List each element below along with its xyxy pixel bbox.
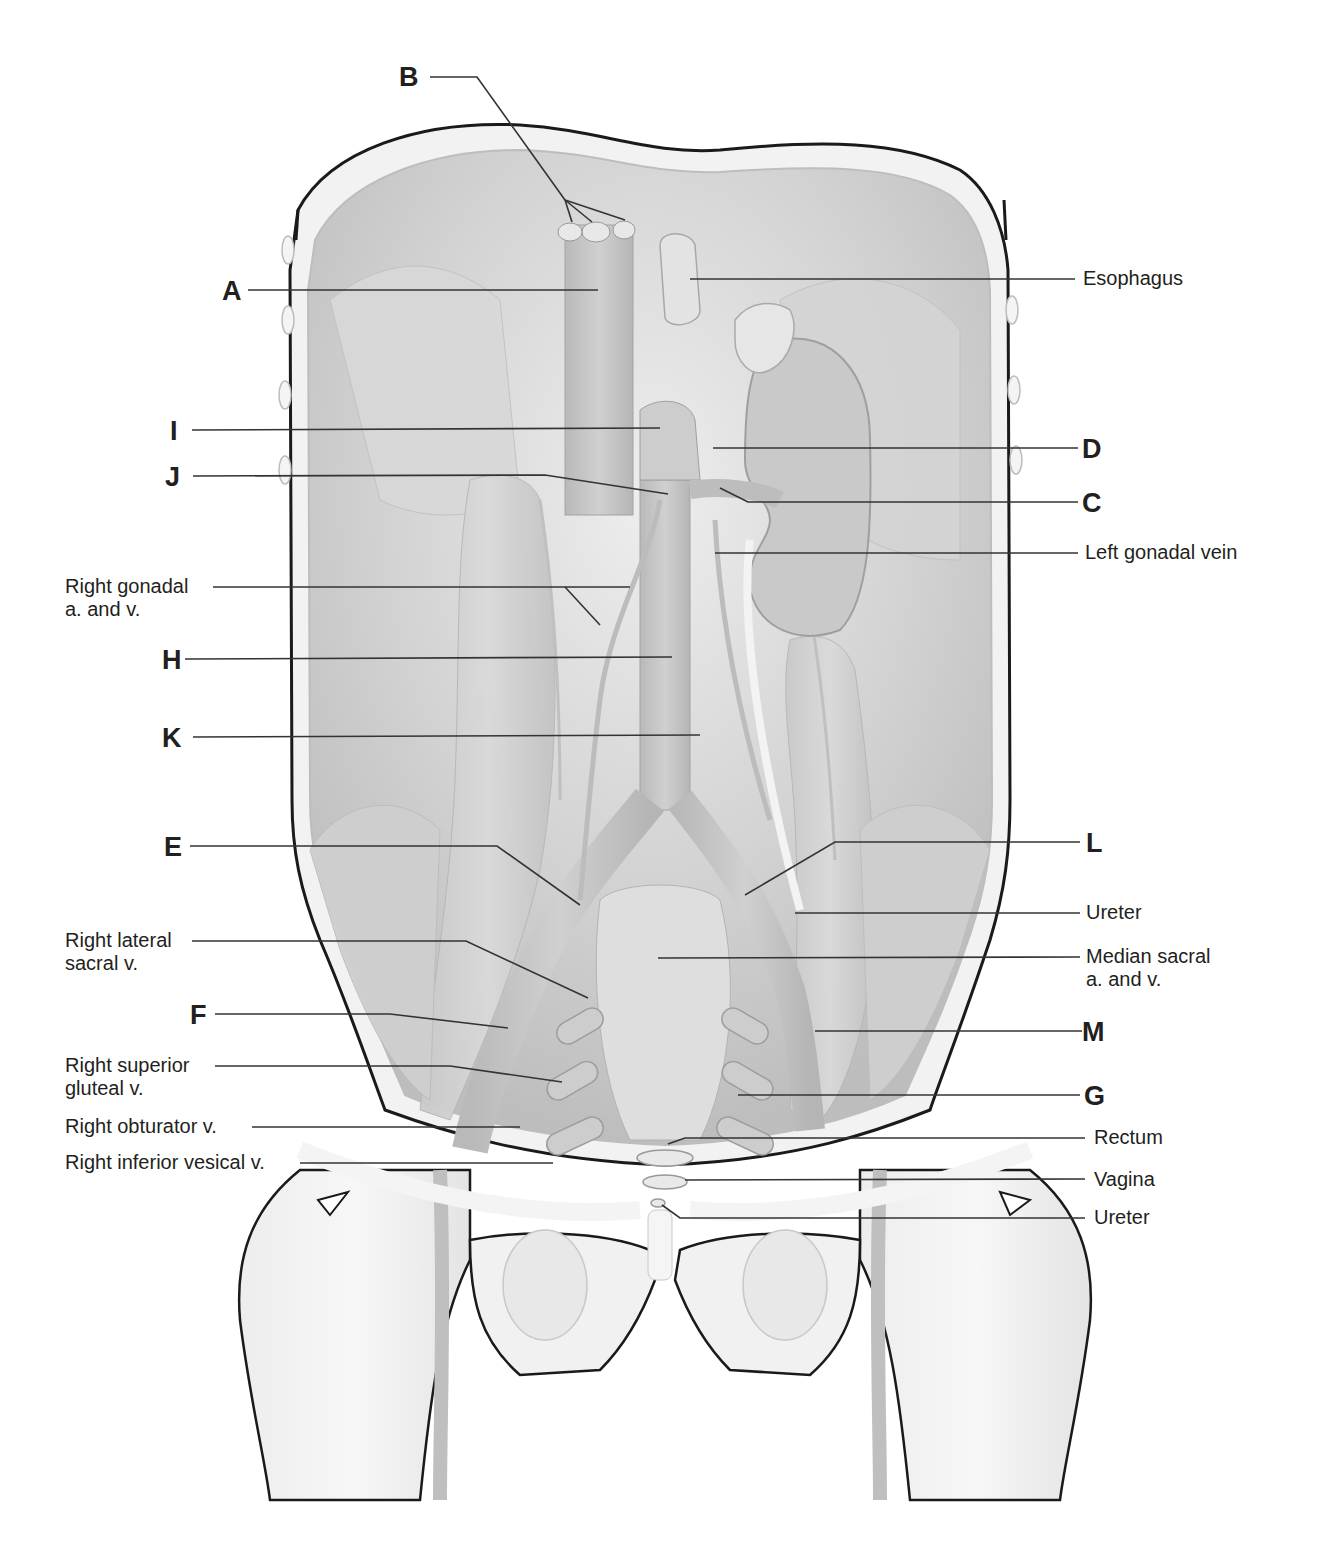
label-rectum: Rectum <box>1094 1126 1163 1149</box>
label-M: M <box>1082 1017 1105 1047</box>
label-right-superior-gluteal: Right superior gluteal v. <box>65 1054 190 1100</box>
label-D: D <box>1082 434 1102 464</box>
label-right-gonadal-line1: Right gonadal <box>65 575 188 598</box>
label-L: L <box>1086 828 1103 858</box>
label-right-superior-gluteal-line1: Right superior <box>65 1054 190 1077</box>
label-F: F <box>190 1000 207 1030</box>
label-B: B <box>399 62 419 92</box>
label-J: J <box>165 462 180 492</box>
label-esophagus: Esophagus <box>1083 267 1183 290</box>
label-left-gonadal-vein: Left gonadal vein <box>1085 541 1237 564</box>
label-vagina: Vagina <box>1094 1168 1155 1191</box>
label-median-sacral-line2: a. and v. <box>1086 968 1211 991</box>
anatomy-illustration <box>0 0 1318 1556</box>
label-right-superior-gluteal-line2: gluteal v. <box>65 1077 190 1100</box>
label-median-sacral-line1: Median sacral <box>1086 945 1211 968</box>
label-ureter-lower: Ureter <box>1094 1206 1150 1229</box>
label-A: A <box>222 276 242 306</box>
label-right-obturator: Right obturator v. <box>65 1115 217 1138</box>
label-ureter-upper: Ureter <box>1086 901 1142 924</box>
label-C: C <box>1082 488 1102 518</box>
label-H: H <box>162 645 182 675</box>
label-G: G <box>1084 1081 1105 1111</box>
label-median-sacral: Median sacral a. and v. <box>1086 945 1211 991</box>
label-I: I <box>170 416 178 446</box>
label-right-lateral-sacral-line1: Right lateral <box>65 929 172 952</box>
label-K: K <box>162 723 182 753</box>
label-right-inferior-vesical: Right inferior vesical v. <box>65 1151 265 1174</box>
label-right-lateral-sacral-line2: sacral v. <box>65 952 172 975</box>
label-right-lateral-sacral: Right lateral sacral v. <box>65 929 172 975</box>
label-right-gonadal-line2: a. and v. <box>65 598 188 621</box>
label-right-gonadal: Right gonadal a. and v. <box>65 575 188 621</box>
label-E: E <box>164 832 182 862</box>
